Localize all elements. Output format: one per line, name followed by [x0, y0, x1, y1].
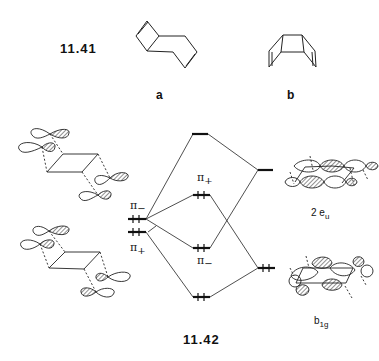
orbital-sketch-2eu — [285, 156, 378, 188]
label-b1g: b1g — [314, 315, 328, 329]
label-left-pi-plus: π+ — [130, 241, 146, 256]
pi-subscript: − — [137, 203, 145, 214]
structure-a-label: a — [156, 88, 163, 102]
structure-b-label: b — [287, 88, 294, 102]
label-mid-pi-minus: π− — [197, 254, 213, 269]
label-mid-pi-plus: π+ — [197, 171, 213, 186]
energy-levels — [128, 134, 275, 297]
pi-subscript: − — [204, 258, 212, 269]
structure-a — [136, 21, 197, 68]
pi-subscript: + — [204, 175, 212, 186]
orbital-sketch-b1g — [289, 256, 373, 298]
molecule-structures — [0, 0, 379, 361]
symmetry-subscript: 1g — [320, 320, 329, 329]
orbital-sketch-pi-plus — [21, 226, 131, 297]
label-2eu: 2 eu — [311, 207, 329, 221]
electron-pairs — [133, 191, 269, 301]
label-left-pi-minus: π− — [130, 199, 146, 214]
pi-subscript: + — [137, 245, 145, 256]
orbital-sketch-pi-minus — [19, 129, 129, 201]
symmetry-main: 2 e — [311, 207, 325, 218]
correlation-lines — [146, 134, 258, 297]
equation-number-11-41: 11.41 — [60, 41, 97, 56]
equation-number-11-42: 11.42 — [183, 332, 220, 347]
structure-b — [269, 35, 316, 67]
symmetry-subscript: u — [325, 212, 329, 221]
